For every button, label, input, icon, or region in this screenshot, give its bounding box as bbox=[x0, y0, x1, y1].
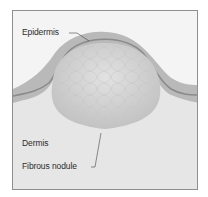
nodule-cell-texture bbox=[52, 43, 161, 129]
label-fibrous-nodule: Fibrous nodule bbox=[22, 161, 77, 171]
label-epidermis: Epidermis bbox=[22, 27, 59, 37]
label-dermis: Dermis bbox=[22, 138, 48, 148]
diagram-frame: Epidermis Dermis Fibrous nodule bbox=[12, 10, 198, 190]
